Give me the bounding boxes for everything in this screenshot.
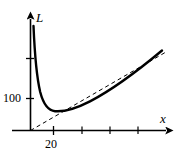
x-tick-label-20: 20 xyxy=(45,138,57,150)
plot-canvas xyxy=(0,0,179,162)
function-graph-figure: L x 100 20 xyxy=(0,0,179,162)
y-axis-label: L xyxy=(36,11,43,24)
y-tick-label-100: 100 xyxy=(3,92,21,104)
x-axis-label: x xyxy=(160,112,166,125)
function-curve xyxy=(34,26,163,111)
